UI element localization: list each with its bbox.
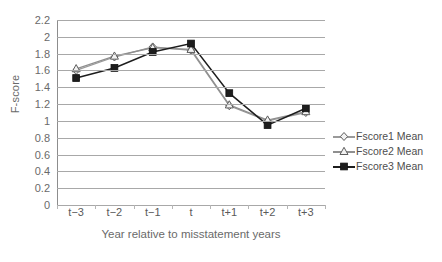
- diamond-marker-icon: [333, 131, 355, 142]
- gridline: [57, 138, 325, 139]
- y-tick-label: 1.6: [35, 64, 50, 76]
- gridline: [57, 87, 325, 88]
- square-marker-icon: [226, 90, 233, 97]
- chart-legend: Fscore1 MeanFscore2 MeanFscore3 Mean: [333, 129, 423, 174]
- legend-label: Fscore1 Mean: [356, 131, 423, 142]
- gridline: [57, 121, 325, 122]
- x-axis-title: Year relative to misstatement years: [57, 228, 325, 240]
- y-tick-label: 0.8: [35, 132, 50, 144]
- series-line: [76, 44, 306, 126]
- gridline: [57, 155, 325, 156]
- diamond-marker-icon: [340, 133, 347, 141]
- y-tick-label: 2.2: [35, 14, 50, 26]
- x-tick-label: t: [189, 206, 192, 218]
- square-marker-icon: [188, 40, 195, 47]
- gridline: [57, 188, 325, 189]
- triangle-marker-icon: [340, 147, 348, 154]
- square-marker-icon: [341, 163, 348, 170]
- plot-area: [57, 20, 325, 205]
- legend-marker-glyph: [333, 146, 355, 157]
- legend-label: Fscore2 Mean: [356, 146, 423, 157]
- series-layer: [57, 20, 325, 205]
- gridline: [57, 54, 325, 55]
- y-tick-label: 1.2: [35, 98, 50, 110]
- square-marker-icon: [73, 75, 80, 82]
- y-tick-label: 1.8: [35, 48, 50, 60]
- x-tick-label: t+2: [260, 206, 276, 218]
- series-diamond: [73, 43, 310, 125]
- x-tick-label: t−3: [68, 206, 84, 218]
- x-axis-tick-labels: t−3t−2t−1tt+1t+2t+3: [57, 206, 325, 224]
- y-tick-label: 0.2: [35, 182, 50, 194]
- y-tick-label: 1: [44, 115, 50, 127]
- x-tick-mark: [325, 205, 326, 209]
- y-tick-label: 0.4: [35, 165, 50, 177]
- legend-item[interactable]: Fscore1 Mean: [333, 129, 423, 144]
- legend-marker-glyph: [333, 131, 355, 142]
- fscore-line-chart: F-score 00.20.40.60.811.21.41.61.822.2 t…: [0, 0, 442, 262]
- gridline: [57, 37, 325, 38]
- x-tick-label: t+3: [298, 206, 314, 218]
- legend-label: Fscore3 Mean: [356, 161, 423, 172]
- gridline: [57, 70, 325, 71]
- y-tick-label: 0.6: [35, 149, 50, 161]
- gridline: [57, 20, 325, 21]
- series-triangle: [72, 44, 310, 124]
- square-marker-icon: [302, 105, 309, 112]
- legend-item[interactable]: Fscore3 Mean: [333, 159, 423, 174]
- legend-item[interactable]: Fscore2 Mean: [333, 144, 423, 159]
- legend-marker-glyph: [333, 161, 355, 172]
- y-axis-tick-labels: 00.20.40.60.811.21.41.61.822.2: [10, 0, 54, 262]
- y-tick-label: 0: [44, 199, 50, 211]
- y-tick-label: 1.4: [35, 81, 50, 93]
- x-tick-label: t−1: [145, 206, 161, 218]
- square-marker-icon: [264, 122, 271, 129]
- y-tick-label: 2: [44, 31, 50, 43]
- gridline: [57, 171, 325, 172]
- gridline: [57, 104, 325, 105]
- square-marker-icon: [333, 161, 355, 172]
- x-tick-label: t−2: [107, 206, 123, 218]
- triangle-marker-icon: [333, 146, 355, 157]
- x-tick-label: t+1: [221, 206, 237, 218]
